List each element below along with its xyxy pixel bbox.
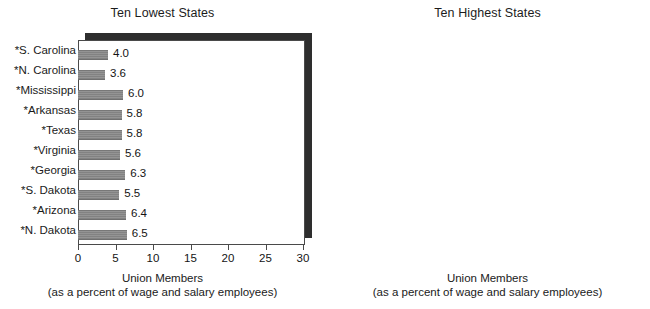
bar-value-label: 6.4 [131,207,147,219]
bar-row: 3.6 [78,65,305,85]
category-label: *N. Carolina [0,60,76,80]
category-labels-lowest: *S. Carolina *N. Carolina *Mississippi *… [0,40,76,240]
x-axis-lowest: 051015202530 [78,245,305,275]
bar-row: 5.5 [78,185,305,205]
x-axis-subtitle-highest: (as a percent of wage and salary employe… [325,286,650,298]
bar [78,90,123,100]
bar-value-label: 5.8 [127,107,143,119]
category-label: *Arkansas [0,100,76,120]
bar [78,190,119,200]
bar-value-label: 6.3 [130,167,146,179]
bar [78,210,126,220]
bar [78,110,122,120]
bar-row: 5.8 [78,105,305,125]
bar-value-label: 3.6 [110,67,126,79]
bar-row: 6.4 [78,205,305,225]
x-axis-subtitle-lowest: (as a percent of wage and salary employe… [0,286,325,298]
bar-row: 6.5 [78,225,305,245]
bar-row: 6.3 [78,165,305,185]
x-axis-tick-label: 20 [222,252,235,264]
category-label: *N. Dakota [0,220,76,240]
x-axis-tick [266,245,267,250]
bar-row: 4.0 [78,45,305,65]
chart-panel-lowest: Ten Lowest States *S. Carolina *N. Carol… [0,0,325,309]
category-label: *Arizona [0,200,76,220]
x-axis-tick-label: 25 [259,252,272,264]
bar-value-label: 4.0 [113,47,129,59]
x-axis-tick [78,245,79,250]
category-label: *S. Dakota [0,180,76,200]
bar [78,70,105,80]
bar-value-label: 6.5 [132,227,148,239]
bar [78,50,108,60]
x-axis-tick [153,245,154,250]
category-label: *Georgia [0,160,76,180]
bar-row: 5.8 [78,125,305,145]
x-axis-tick-label: 0 [75,252,81,264]
x-axis-tick-label: 5 [112,252,118,264]
x-axis-tick-label: 30 [297,252,310,264]
plot-shadow-right [305,33,312,238]
x-axis-tick-label: 10 [147,252,160,264]
plot-area-lowest: 4.03.66.05.85.85.66.35.56.46.5 [78,33,305,245]
x-axis-title-highest: Union Members [325,272,650,284]
bar-row: 5.6 [78,145,305,165]
bar [78,130,122,140]
bar-rows-lowest: 4.03.66.05.85.85.66.35.56.46.5 [78,40,305,245]
x-axis-tick [116,245,117,250]
x-axis-tick-label: 15 [184,252,197,264]
chart-panel-highest: Ten Highest States New York Hawaii Michi… [325,0,650,309]
bar-value-label: 5.5 [124,187,140,199]
category-label: *Mississippi [0,80,76,100]
chart-title-lowest: Ten Lowest States [0,6,325,20]
chart-title-highest: Ten Highest States [325,6,650,20]
category-label: *Virginia [0,140,76,160]
x-axis-title-lowest: Union Members [0,272,325,284]
bar [78,170,125,180]
bar-value-label: 6.0 [128,87,144,99]
x-axis-tick [228,245,229,250]
x-axis-tick [303,245,304,250]
x-axis-tick [191,245,192,250]
bar [78,230,127,240]
bar-value-label: 5.6 [125,147,141,159]
bar [78,150,120,160]
category-label: *S. Carolina [0,40,76,60]
bar-row: 6.0 [78,85,305,105]
category-label: *Texas [0,120,76,140]
bar-value-label: 5.8 [127,127,143,139]
